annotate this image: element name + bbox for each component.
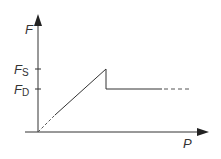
fd-label: FD [14,82,29,98]
x-axis [25,128,209,136]
y-axis-label: F [25,22,34,37]
friction-diagram: F FS FD P [0,0,221,159]
fs-label: FS [14,62,29,78]
y-axis [34,14,42,132]
static-dashed-start [38,115,55,132]
y-axis-arrow-icon [34,14,42,26]
diagram-canvas: F FS FD P [0,0,221,159]
static-friction-line [55,69,106,115]
x-axis-arrow-icon [197,128,209,136]
x-axis-label: P [183,136,192,151]
